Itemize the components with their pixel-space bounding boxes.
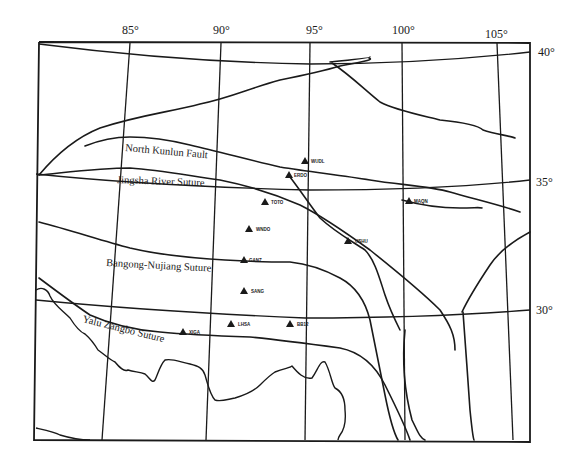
triangle-icon (240, 287, 248, 294)
station-ganz: GANZ (240, 256, 262, 263)
label-north-kunlun-fault: North Kunlun Fault (125, 142, 209, 160)
lon-label-85: 85° (122, 23, 139, 37)
station-wudl: WUDL (301, 157, 325, 164)
lon-label-100: 100° (392, 23, 415, 37)
lon-label-95: 95° (306, 23, 323, 37)
station-label: USHU (355, 239, 368, 244)
parallels (36, 44, 530, 318)
label-bangong-nujiang-suture: Bangong-Nujiang Suture (106, 257, 212, 274)
station-xiga: XIGA (179, 328, 201, 335)
latitude-labels: 40° 35° 30° (536, 45, 555, 317)
parallel-30 (36, 300, 530, 318)
meridian-105 (497, 43, 513, 440)
tibet-fault-map: 85° 90° 95° 100° 105° 40° 35° 30° North … (0, 0, 581, 468)
triangle-icon (245, 225, 253, 232)
longitude-labels: 85° 90° 95° 100° 105° (122, 23, 508, 41)
faults (39, 57, 530, 440)
lat-label-30: 30° (536, 303, 553, 317)
bangong-nujiang-suture (39, 222, 398, 440)
parallel-40 (39, 44, 530, 64)
eastern-fault-1 (404, 330, 425, 440)
border-line (36, 288, 345, 440)
eastern-fault-2 (463, 312, 474, 440)
station-label: WUDL (311, 159, 325, 164)
station-label: ERDO (294, 173, 308, 178)
parallel-35 (36, 174, 530, 190)
triangle-icon (286, 320, 294, 327)
triangle-icon (285, 171, 293, 178)
station-bb12: BB12 (286, 320, 309, 327)
station-label: WNDO (256, 227, 271, 232)
lat-label-40: 40° (538, 45, 555, 59)
triangle-icon (261, 198, 269, 205)
meridians (102, 43, 513, 440)
xianshuihe-fault (462, 232, 530, 312)
fault-labels: North Kunlun Fault Jingsha River Suture … (82, 142, 212, 344)
station-lhsa: LHSA (227, 320, 251, 327)
border-southwest (36, 428, 90, 440)
station-sang: SANG (240, 287, 265, 294)
label-yalu-zangbo-suture: Yalu Zangbo Suture (82, 313, 167, 344)
lon-label-90: 90° (213, 23, 230, 37)
triangle-icon (240, 256, 248, 263)
southern-border (36, 288, 345, 440)
station-ushu: USHU (344, 237, 368, 244)
station-label: LHSA (238, 322, 251, 327)
station-erdo: ERDO (285, 171, 308, 178)
triangle-icon (179, 328, 187, 335)
station-label: SANG (251, 289, 265, 294)
station-label: BB12 (297, 322, 309, 327)
station-label: GANZ (249, 258, 262, 263)
triangle-icon (301, 157, 309, 164)
station-toto: TOTO (261, 198, 284, 205)
yalu-zangbo-suture (39, 278, 410, 440)
meridian-95 (305, 43, 310, 440)
station-maqn: MAQN (405, 197, 428, 204)
triangle-icon (227, 320, 235, 327)
kunlun-east-fault (332, 63, 515, 138)
lat-label-35: 35° (536, 175, 553, 189)
station-label: MAQN (414, 199, 428, 204)
lon-label-105: 105° (485, 27, 508, 41)
station-label: XIGA (189, 330, 201, 335)
station-wndo: WNDO (245, 225, 271, 232)
station-label: TOTO (271, 200, 284, 205)
label-jingsha-river-suture: Jingsha River Suture (117, 174, 205, 188)
